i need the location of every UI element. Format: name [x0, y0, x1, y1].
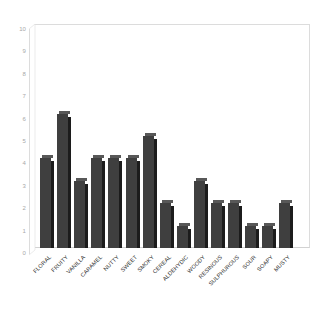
bar[interactable]	[57, 114, 68, 248]
y-axis-tick-label: 8	[0, 71, 26, 77]
bar-side-face	[154, 139, 157, 248]
bar-side-face	[290, 206, 293, 248]
bar-slot	[159, 24, 176, 248]
x-axis-category-label: MUSTY	[273, 254, 292, 273]
bar-side-face	[102, 161, 105, 248]
bar-side-face	[51, 161, 54, 248]
y-axis-line	[29, 29, 30, 254]
bar-top-face	[179, 223, 190, 226]
bar-side-face	[205, 184, 208, 248]
bar[interactable]	[40, 158, 51, 248]
bar[interactable]	[126, 158, 137, 248]
bar-slot	[39, 24, 56, 248]
bar[interactable]	[160, 203, 171, 248]
y-axis-tick-label: 7	[0, 93, 26, 99]
bar-side-face	[85, 184, 88, 248]
bar-top-face	[93, 155, 104, 158]
y-axis-tick-label: 10	[0, 26, 26, 32]
bar-slot	[56, 24, 73, 248]
bar-top-face	[281, 200, 292, 203]
y-axis-tick-label: 6	[0, 116, 26, 122]
bar-side-face	[119, 161, 122, 248]
bar[interactable]	[108, 158, 119, 248]
bar-slot	[193, 24, 210, 248]
bar[interactable]	[279, 203, 290, 248]
bar-side-face	[188, 229, 191, 248]
bar-top-face	[264, 223, 275, 226]
bar-slot	[210, 24, 227, 248]
bar[interactable]	[245, 226, 256, 248]
bar-top-face	[110, 155, 121, 158]
bar-slot	[73, 24, 90, 248]
y-axis-tick-label: 0	[0, 250, 26, 256]
bar-top-face	[162, 200, 173, 203]
bar-side-face	[273, 229, 276, 248]
bar[interactable]	[74, 181, 85, 248]
bar-side-face	[256, 229, 259, 248]
bar[interactable]	[262, 226, 273, 248]
y-axis-tick-labels: 109876543210	[0, 24, 26, 254]
bar-top-face	[128, 155, 139, 158]
bar-top-face	[247, 223, 258, 226]
y-axis-tick-label: 3	[0, 183, 26, 189]
y-axis-tick-label: 1	[0, 228, 26, 234]
x-axis-category-label: NUTTY	[103, 254, 121, 272]
bar-top-face	[59, 111, 70, 114]
bar-top-face	[145, 133, 156, 136]
bar-slot	[107, 24, 124, 248]
bar-side-face	[137, 161, 140, 248]
bar[interactable]	[211, 203, 222, 248]
bar-slot	[227, 24, 244, 248]
bar-top-face	[230, 200, 241, 203]
bar-slot	[90, 24, 107, 248]
bar[interactable]	[177, 226, 188, 248]
bar-top-face	[76, 178, 87, 181]
bar-slot	[278, 24, 295, 248]
x-axis-category-labels: FLORALFRUITYVANILLACARAMELNUTTYSWEETSMOK…	[34, 250, 310, 325]
bar[interactable]	[143, 136, 154, 248]
bar-side-face	[239, 206, 242, 248]
bar-top-face	[42, 155, 53, 158]
y-axis-tick-label: 5	[0, 138, 26, 144]
bar-slot	[261, 24, 278, 248]
bar-chart: 109876543210 FLORALFRUITYVANILLACARAMELN…	[0, 0, 322, 325]
bar[interactable]	[91, 158, 102, 248]
bar-top-face	[196, 178, 207, 181]
bar-side-face	[68, 117, 71, 248]
bar-slot	[125, 24, 142, 248]
x-axis-category-label: SWEET	[119, 254, 138, 273]
y-axis-tick-label: 4	[0, 160, 26, 166]
bar-slot	[176, 24, 193, 248]
bars-layer	[34, 24, 310, 248]
bar-side-face	[171, 206, 174, 248]
x-axis-category-label: SOAPY	[256, 254, 274, 272]
bar[interactable]	[194, 181, 205, 248]
bar-side-face	[222, 206, 225, 248]
y-axis-tick-label: 9	[0, 48, 26, 54]
bar-top-face	[213, 200, 224, 203]
x-axis-category-label: FLORAL	[32, 254, 52, 274]
bar-slot	[244, 24, 261, 248]
bar[interactable]	[228, 203, 239, 248]
bar-slot	[142, 24, 159, 248]
y-axis-tick-label: 2	[0, 205, 26, 211]
